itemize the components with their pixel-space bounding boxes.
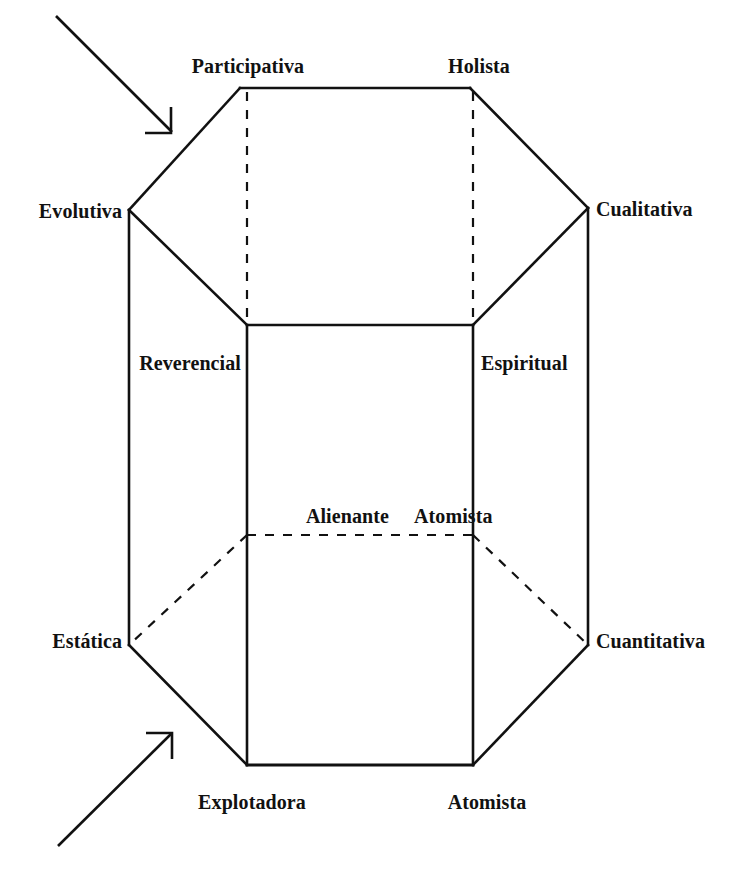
bottom-face-hidden-left-slant	[129, 535, 247, 645]
top-face-right-edge	[470, 88, 588, 208]
label-atomista-middle: Atomista	[414, 506, 493, 526]
bottom-right-slant-edge	[473, 645, 588, 765]
label-reverencial: Reverencial	[139, 353, 241, 373]
arrow-bottom-pointer	[58, 733, 172, 846]
label-evolutiva: Evolutiva	[39, 201, 122, 221]
label-participativa: Participativa	[192, 56, 304, 76]
label-espiritual: Espiritual	[481, 353, 568, 373]
bottom-left-slant-edge	[129, 645, 247, 765]
label-cualitativa: Cualitativa	[596, 199, 693, 219]
label-cuantitativa: Cuantitativa	[596, 631, 705, 651]
hexagonal-prism-diagram: Participativa Holista Evolutiva Cualitat…	[0, 0, 751, 872]
prism-drawing	[0, 0, 751, 872]
label-explotadora: Explotadora	[198, 792, 306, 812]
arrow-top-pointer	[56, 16, 172, 133]
label-alienante: Alienante	[306, 506, 389, 526]
upper-right-slant-edge	[473, 208, 588, 325]
upper-left-slant-edge	[129, 210, 247, 325]
label-atomista-bottom: Atomista	[448, 792, 527, 812]
label-holista: Holista	[448, 56, 510, 76]
label-estatica: Estática	[52, 631, 122, 651]
bottom-face-hidden-right-slant	[473, 535, 588, 645]
